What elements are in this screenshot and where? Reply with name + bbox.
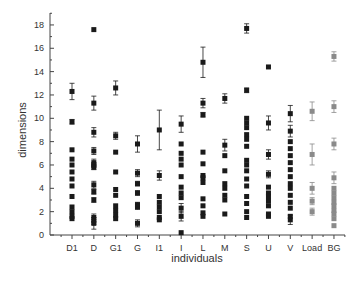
y-tick-label: 2 (39, 207, 44, 217)
data-point-marker (179, 185, 184, 190)
data-point-marker (179, 214, 184, 219)
series-load (310, 102, 315, 215)
data-point-marker (310, 109, 315, 114)
data-point-marker (288, 186, 293, 191)
data-point-marker (266, 214, 271, 219)
data-point-marker (331, 211, 336, 216)
data-point-marker (157, 204, 162, 209)
data-point-marker (113, 133, 118, 138)
data-point-marker (266, 194, 271, 199)
series-g1 (113, 81, 118, 221)
data-point-marker (310, 209, 315, 214)
data-point-marker (70, 162, 75, 167)
data-point-marker (200, 180, 205, 185)
data-point-marker (157, 200, 162, 205)
y-axis-title: dimensions (16, 102, 28, 158)
data-point-marker (179, 157, 184, 162)
data-point-marker (113, 203, 118, 208)
series-l (200, 47, 205, 219)
data-point-marker (200, 101, 205, 106)
data-point-marker (113, 85, 118, 90)
y-tick-label: 8 (39, 137, 44, 147)
data-point-marker (288, 206, 293, 211)
series-g (135, 136, 140, 227)
data-point-marker (244, 209, 249, 214)
data-point-marker (222, 181, 227, 186)
data-point-marker (179, 162, 184, 167)
data-point-marker (288, 167, 293, 172)
data-point-marker (288, 139, 293, 144)
data-point-marker (91, 101, 96, 106)
data-point-marker (179, 206, 184, 211)
data-point-marker (288, 153, 293, 158)
data-point-marker (331, 195, 336, 200)
data-point-marker (222, 168, 227, 173)
data-point-marker (266, 152, 271, 157)
series-m (222, 94, 227, 217)
data-point-marker (244, 215, 249, 220)
data-point-marker (222, 153, 227, 158)
data-point-marker (70, 89, 75, 94)
data-point-marker (157, 217, 162, 222)
data-point-marker (266, 185, 271, 190)
data-point-marker (135, 181, 140, 186)
data-point-marker (331, 216, 336, 221)
x-tick-label: D (91, 243, 98, 253)
data-point-marker (113, 208, 118, 213)
data-point-marker (113, 187, 118, 192)
data-point-marker (70, 157, 75, 162)
data-point-marker (244, 132, 249, 137)
data-point-marker (244, 168, 249, 173)
data-point-marker (244, 26, 249, 31)
data-point-marker (91, 197, 96, 202)
data-point-marker (288, 160, 293, 165)
data-point-marker (113, 216, 118, 221)
data-point-marker (157, 173, 162, 178)
y-tick-label: 10 (34, 113, 44, 123)
data-point-marker (70, 147, 75, 152)
y-tick-label: 12 (34, 90, 44, 100)
data-point-marker (179, 174, 184, 179)
data-point-marker (157, 127, 162, 132)
data-point-marker (288, 200, 293, 205)
data-point-marker (200, 112, 205, 117)
x-tick-label: S (244, 243, 250, 253)
data-point-marker (288, 217, 293, 222)
scatter-chart: 024681012141618D1DG1GI1ILMSUVLoadBG indi… (0, 0, 364, 281)
data-point-marker (157, 194, 162, 199)
data-point-marker (266, 203, 271, 208)
data-point-marker (70, 216, 75, 221)
data-point-marker (244, 88, 249, 93)
data-point-marker (288, 129, 293, 134)
data-point-marker (200, 60, 205, 65)
data-point-marker (200, 175, 205, 180)
data-point-marker (113, 150, 118, 155)
data-point-marker (135, 141, 140, 146)
data-point-marker (135, 171, 140, 176)
y-tick-label: 0 (39, 230, 44, 240)
data-point-marker (222, 211, 227, 216)
data-point-marker (135, 204, 140, 209)
series-bg (331, 52, 336, 228)
data-point-marker (179, 122, 184, 127)
data-point-marker (113, 169, 118, 174)
data-point-marker (70, 194, 75, 199)
series-d1 (70, 83, 75, 221)
data-point-marker (288, 181, 293, 186)
data-point-marker (244, 120, 249, 125)
x-tick-label: V (287, 243, 293, 253)
data-point-marker (179, 141, 184, 146)
data-point-marker (331, 175, 336, 180)
data-point-marker (266, 64, 271, 69)
data-point-marker (310, 186, 315, 191)
data-point-marker (331, 141, 336, 146)
data-point-marker (200, 203, 205, 208)
series-d (91, 27, 96, 229)
data-point-marker (331, 190, 336, 195)
data-point-marker (91, 130, 96, 135)
x-tick-label: U (265, 243, 272, 253)
data-point-marker (288, 146, 293, 151)
y-tick-label: 4 (39, 183, 44, 193)
data-point-marker (222, 197, 227, 202)
data-point-marker (222, 96, 227, 101)
